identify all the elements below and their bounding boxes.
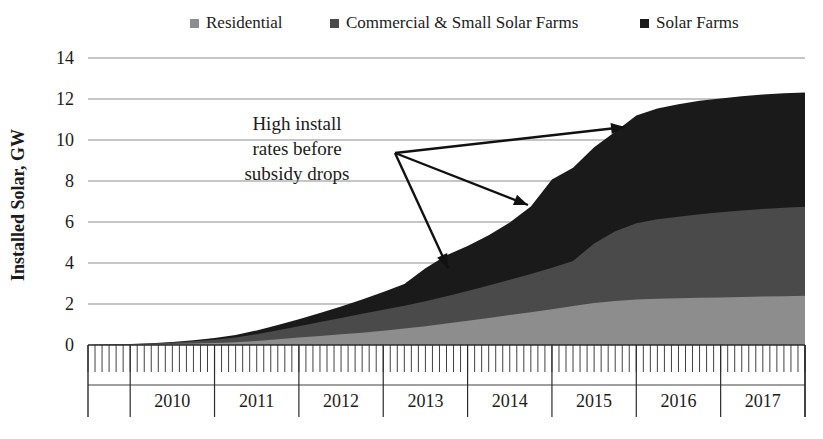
legend-swatch-0 xyxy=(190,19,199,28)
y-tick-label-12: 12 xyxy=(56,89,74,109)
y-tick-label-10: 10 xyxy=(56,130,74,150)
y-axis-ticks: 14121086420 xyxy=(56,48,74,355)
y-tick-label-2: 2 xyxy=(65,294,74,314)
chart-legend: ResidentialCommercial & Small Solar Farm… xyxy=(190,13,739,32)
x-year-label-2014: 2014 xyxy=(492,391,528,411)
y-tick-label-0: 0 xyxy=(65,335,74,355)
y-axis-title: Installed Solar, GW xyxy=(8,129,28,281)
legend-label-0: Residential xyxy=(206,13,283,32)
y-tick-label-14: 14 xyxy=(56,48,74,68)
x-year-label-2010: 2010 xyxy=(154,391,190,411)
x-axis-ticks xyxy=(88,345,805,417)
y-tick-label-8: 8 xyxy=(65,171,74,191)
annotation-line-1: High install xyxy=(252,113,341,134)
y-tick-label-6: 6 xyxy=(65,212,74,232)
chart-canvas: ResidentialCommercial & Small Solar Farm… xyxy=(0,0,823,439)
x-year-label-2016: 2016 xyxy=(660,391,696,411)
x-year-label-2015: 2015 xyxy=(576,391,612,411)
x-year-label-2012: 2012 xyxy=(323,391,359,411)
x-year-label-2011: 2011 xyxy=(239,391,274,411)
y-tick-label-4: 4 xyxy=(65,253,74,273)
stacked-area-chart: ResidentialCommercial & Small Solar Farm… xyxy=(0,0,823,439)
x-year-label-2017: 2017 xyxy=(745,391,781,411)
legend-swatch-2 xyxy=(640,19,649,28)
annotation-group: High install rates before subsidy drops xyxy=(244,113,349,184)
legend-label-2: Solar Farms xyxy=(656,13,739,32)
legend-label-1: Commercial & Small Solar Farms xyxy=(346,13,578,32)
annotation-line-3: subsidy drops xyxy=(244,163,349,184)
x-year-label-2013: 2013 xyxy=(407,391,443,411)
annotation-arrowhead-1 xyxy=(513,195,528,205)
legend-swatch-1 xyxy=(330,19,339,28)
stacked-area-series xyxy=(88,92,805,345)
annotation-line-2: rates before xyxy=(252,138,341,159)
